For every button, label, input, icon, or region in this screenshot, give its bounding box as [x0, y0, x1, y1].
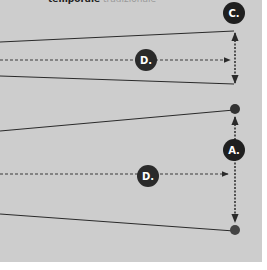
lower-top-line [0, 110, 234, 131]
lower-top-endpoint-dot [230, 104, 240, 114]
badge-d-upper-label: D. [140, 55, 152, 66]
badge-d-upper: D. [135, 49, 157, 71]
lower-bottom-endpoint-dot [230, 225, 240, 235]
badge-d-lower-label: D. [142, 171, 154, 182]
badge-a-label: A. [228, 145, 240, 156]
badge-c: C. [223, 2, 245, 24]
badge-a: A. [223, 139, 245, 161]
lower-bottom-line [0, 214, 234, 231]
diagram: C. D. A. D. [0, 0, 267, 270]
upper-top-line [0, 31, 234, 42]
badge-d-lower: D. [137, 165, 159, 187]
badge-c-label: C. [228, 8, 239, 19]
upper-bottom-line [0, 76, 234, 84]
